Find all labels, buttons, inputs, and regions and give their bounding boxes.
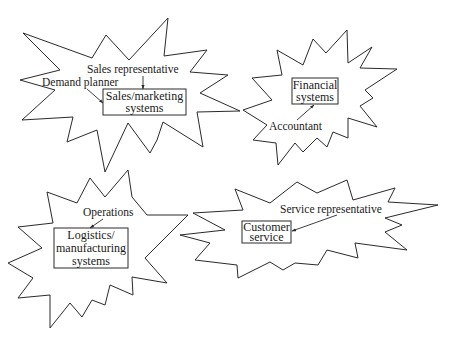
cluster-logistics: Logistics/ manufacturing systems Operati…	[8, 170, 188, 328]
system-label-financial-line2: systems	[296, 90, 334, 104]
system-label-sales-line2: systems	[125, 101, 163, 115]
cluster-financial: Financial systems Accountant	[243, 30, 397, 165]
actor-service-representative: Service representative	[280, 203, 382, 216]
actor-accountant: Accountant	[269, 120, 323, 132]
actor-operations: Operations	[83, 206, 134, 219]
cluster-customer-service: Customer service Service representative	[180, 180, 438, 278]
cluster-sales-marketing: Sales/marketing systems Sales representa…	[20, 18, 240, 172]
system-label-customer-service-line2: service	[250, 230, 284, 244]
burst-shape-customer-service	[180, 180, 438, 278]
system-label-logistics-line1: Logistics/	[67, 228, 115, 242]
diagram-canvas: Sales/marketing systems Sales representa…	[0, 0, 452, 344]
actor-demand-planner: Demand planner	[42, 76, 118, 89]
system-label-logistics-line2: manufacturing	[56, 241, 126, 255]
system-label-logistics-line3: systems	[72, 254, 110, 268]
actor-sales-representative: Sales representative	[87, 63, 179, 76]
